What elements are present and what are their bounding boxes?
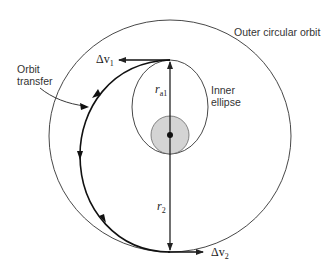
- inner-ellipse-label-line1: Inner: [211, 84, 241, 96]
- r-2-label: r2: [157, 199, 166, 215]
- orbit-transfer-leader: [40, 88, 85, 106]
- delta-v1-label: Δv1: [96, 52, 114, 68]
- orbit-transfer-leader-arrowhead: [80, 103, 89, 110]
- delta-v1-subscript: 1: [110, 59, 114, 68]
- orbit-transfer-label: Orbit transfer: [17, 63, 53, 87]
- orbit-transfer-label-line2: transfer: [17, 75, 53, 87]
- r-a1-label: ra1: [155, 82, 167, 98]
- transfer-arrow-2: [77, 151, 83, 160]
- transfer-arrow-1: [92, 89, 101, 98]
- delta-v2-symbol: Δv: [211, 245, 225, 259]
- delta-v2-subscript: 2: [225, 252, 229, 261]
- outer-orbit-label: Outer circular orbit: [234, 26, 320, 38]
- delta-v2-label: Δv2: [211, 245, 229, 261]
- delta-v1-symbol: Δv: [96, 52, 110, 66]
- inner-ellipse-label: Inner ellipse: [211, 84, 241, 108]
- r-2-subscript: 2: [162, 206, 166, 215]
- orbit-diagram: [0, 0, 331, 270]
- r-a1-subscript: a1: [160, 89, 168, 98]
- orbit-transfer-label-line1: Orbit: [17, 63, 53, 75]
- inner-ellipse-label-line2: ellipse: [211, 96, 241, 108]
